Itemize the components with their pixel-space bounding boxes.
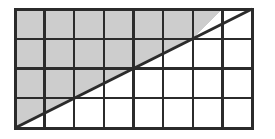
figure-root <box>0 0 275 139</box>
grid-diagram <box>0 0 275 139</box>
